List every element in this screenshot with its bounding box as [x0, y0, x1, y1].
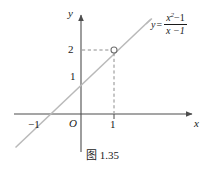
equation-equals-sign: = [156, 20, 162, 30]
equation-numerator: x2−1 [164, 13, 187, 24]
y-tick-label-1: 1 [70, 71, 76, 82]
y-axis-label: y [68, 8, 73, 19]
x-axis-label: x [194, 118, 199, 129]
origin-label: O [69, 118, 77, 129]
figure-container: y x O −1 1 1 2 y = x2−1 x −1 图 1.35 [0, 0, 205, 170]
x-tick-label-1: 1 [110, 119, 116, 130]
equation-denominator: x −1 [164, 25, 187, 36]
y-tick-label-2: 2 [68, 44, 74, 55]
figure-caption: 图 1.35 [0, 146, 205, 162]
equation-lhs: y [151, 20, 155, 30]
open-point-discontinuity [111, 47, 117, 53]
numerator-remainder: −1 [174, 12, 185, 23]
x-tick-label-neg1: −1 [28, 119, 40, 130]
equation-fraction: x2−1 x −1 [164, 13, 187, 36]
curve-equation-label: y = x2−1 x −1 [151, 13, 187, 36]
